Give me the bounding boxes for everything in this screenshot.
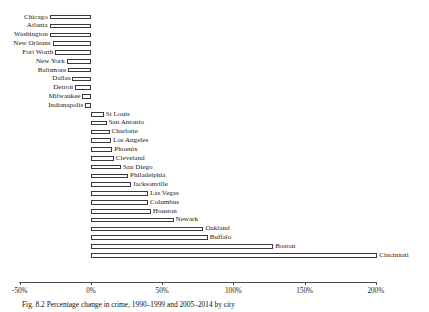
x-axis-tick [233,282,234,285]
bar-row: New Orleans [0,39,429,48]
bar [50,33,91,38]
bar-category-label: Baltimore [0,66,66,75]
bar-category-label: Washington [0,30,48,39]
bar-row: San Diego [0,163,429,172]
bar-category-label: Chicago [0,13,48,22]
bar-category-label: Jacksonville [133,180,168,189]
plot-area: ChicagoAtlantaWashingtonNew OrleansFort … [0,0,429,282]
bar-row: Phoenix [0,145,429,154]
bar-row: St Louis [0,110,429,119]
bar-category-label: Oakland [205,224,229,233]
bar-category-label: St Louis [106,110,130,119]
bar [91,244,273,249]
bar-row: Charlotte [0,128,429,137]
bar [91,156,114,161]
bar-category-label: Milwaukee [0,92,80,101]
bar-category-label: Las Vegas [150,189,179,198]
bar [91,147,112,152]
x-axis-tick-label: 200% [356,287,396,296]
bar-category-label: Dallas [0,74,70,83]
bar-row: Houston [0,207,429,216]
bar-row: Philadelphia [0,172,429,181]
bar-row: San Antonio [0,119,429,128]
bar-category-label: Columbus [150,198,179,207]
bar-row: Boston [0,242,429,251]
bar [91,209,151,214]
x-axis-tick-label: -50% [0,287,40,296]
bar [91,121,107,126]
bar [91,227,203,232]
bar-row: Indianapolis [0,101,429,110]
bar-row: Chicago [0,13,429,22]
bar-category-label: Buffalo [210,233,232,242]
x-axis-tick-label: 100% [213,287,253,296]
bar [82,94,91,99]
bar-chart-figure: ChicagoAtlantaWashingtonNew OrleansFort … [0,0,429,312]
bar-category-label: Philadelphia [130,171,165,180]
x-axis-tick [162,282,163,285]
bar-category-label: Atlanta [0,21,48,30]
bar [91,182,131,187]
bar [72,77,91,82]
bar [91,138,111,143]
bar-row: Las Vegas [0,189,429,198]
x-axis-tick [376,282,377,285]
x-axis-tick [305,282,306,285]
bar [53,41,91,46]
bar [68,68,91,73]
bar [50,24,91,29]
x-axis-tick [20,282,21,285]
bar [91,200,148,205]
bar-row: Buffalo [0,234,429,243]
bar [91,165,121,170]
bar-category-label: Charlotte [112,127,138,136]
bar-category-label: Detroit [0,83,73,92]
bar-category-label: San Diego [123,163,153,172]
bar [85,103,91,108]
bar-category-label: Newark [176,215,198,224]
bar-category-label: New Orleans [0,39,51,48]
bar [91,174,128,179]
bar-category-label: Houston [153,207,177,216]
bar [50,15,91,20]
bar [91,112,104,117]
x-axis-line [19,282,376,283]
figure-caption: Fig. 8.2 Percentage change in crime, 199… [22,300,422,309]
bar [91,191,148,196]
bar-category-label: San Antonio [109,118,144,127]
bar-row: Los Angeles [0,136,429,145]
x-axis-tick-label: 150% [285,287,325,296]
bar-category-label: Boston [275,242,295,251]
bar-row: Cincinnati [0,251,429,260]
bar-row: Atlanta [0,22,429,31]
bar-category-label: New York [0,57,65,66]
bar [67,59,91,64]
bar-category-label: Fort Worth [0,48,53,57]
bar-category-label: Cleveland [116,154,145,163]
bar-category-label: Cincinnati [379,251,409,260]
bar-category-label: Los Angeles [113,136,148,145]
x-axis-tick [91,282,92,285]
bar [91,235,208,240]
bar [55,50,91,55]
bar [91,253,377,258]
bar-row: Cleveland [0,154,429,163]
x-axis-tick-label: 0% [71,287,111,296]
bar-category-label: Indianapolis [0,101,83,110]
bar-row: Columbus [0,198,429,207]
bar-row: Washington [0,31,429,40]
x-axis-tick-label: 50% [142,287,182,296]
bar [91,218,174,223]
bar-category-label: Phoenix [114,145,137,154]
bar-row: Jacksonville [0,181,429,190]
bar [91,130,110,135]
bar [75,85,91,90]
